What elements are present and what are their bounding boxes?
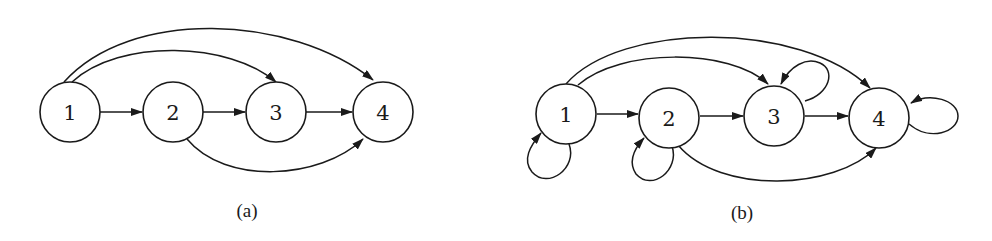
graph-figure: 1 2 3 4 (a) 1	[0, 0, 992, 241]
edge-b-1-4	[566, 37, 870, 88]
self-loop-b-4	[909, 98, 958, 134]
panel-b: 1 2 3 4 (b)	[527, 37, 958, 224]
caption-b: (b)	[731, 202, 753, 224]
edge-b-2-4	[678, 145, 876, 181]
node-b-1: 1	[536, 84, 596, 144]
node-b-2: 2	[639, 88, 699, 148]
node-a-1: 1	[40, 82, 100, 142]
node-label: 2	[166, 101, 179, 125]
node-b-4: 4	[849, 88, 909, 148]
node-label: 1	[559, 103, 572, 127]
edge-a-1-3	[72, 50, 276, 82]
node-a-3: 3	[246, 82, 306, 142]
node-label: 4	[376, 101, 389, 125]
node-label: 3	[767, 105, 780, 129]
panel-a: 1 2 3 4 (a)	[40, 28, 413, 222]
node-label: 3	[269, 101, 282, 125]
edge-a-2-4	[187, 139, 363, 172]
node-label: 1	[63, 101, 76, 125]
edge-b-1-3	[578, 57, 768, 85]
node-label: 4	[872, 107, 885, 131]
caption-a: (a)	[236, 200, 257, 222]
node-b-3: 3	[744, 86, 804, 146]
node-a-2: 2	[143, 82, 203, 142]
node-a-4: 4	[353, 82, 413, 142]
node-label: 2	[662, 107, 675, 131]
